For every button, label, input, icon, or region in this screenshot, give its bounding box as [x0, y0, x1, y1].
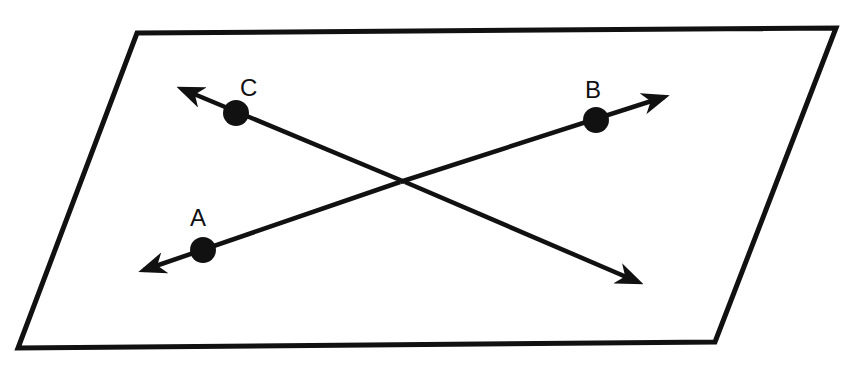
point-c	[223, 100, 249, 126]
line-c-to-c-end	[182, 89, 405, 182]
diagram-canvas: A B C	[0, 0, 842, 365]
point-a	[190, 237, 216, 263]
label-b: B	[585, 76, 601, 103]
line-c-to-lower-end	[405, 182, 638, 282]
point-b	[583, 107, 609, 133]
line-ab-to-b-end	[400, 97, 664, 182]
label-c: C	[240, 74, 257, 101]
label-a: A	[190, 204, 206, 231]
plane-parallelogram	[18, 28, 836, 348]
line-ab-to-a-end	[144, 182, 400, 270]
